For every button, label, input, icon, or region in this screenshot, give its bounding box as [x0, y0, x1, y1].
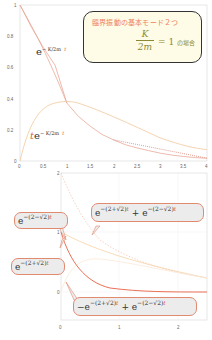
annotation-fraction: K 2m — [136, 29, 154, 52]
annotation-box: 臨界振動の基本モード２つ K 2m = 1 の場合 — [83, 11, 202, 63]
svg-text:0: 0 — [57, 290, 60, 295]
svg-text:0.8: 0.8 — [7, 34, 14, 39]
callout-sum: e−(2+√2)t + e−(2−√2)t — [91, 203, 204, 222]
bottom-series-sum — [61, 173, 207, 278]
svg-text:0: 0 — [18, 164, 21, 169]
top-y-axis: 1 0.8 0.6 0.4 0.2 0 — [7, 3, 17, 164]
svg-text:1.5: 1.5 — [87, 164, 94, 169]
svg-text:1: 1 — [14, 3, 17, 8]
top-x-axis: 0 0.5 1 1.5 2 2.5 3 3.5 4 — [18, 164, 208, 169]
svg-text:0.4: 0.4 — [7, 97, 14, 102]
annotation-equation: = 1 の場合 — [158, 37, 195, 47]
callout-slow-mode: e−(2−√2)t — [14, 212, 68, 229]
svg-text:0.5: 0.5 — [40, 164, 47, 169]
svg-text:0.2: 0.2 — [7, 128, 14, 133]
label-texp-curve: te− K/2m t — [30, 130, 64, 141]
callout-fast-mode: e−(2+√2)t — [11, 258, 65, 275]
svg-text:4: 4 — [205, 164, 208, 169]
svg-text:0: 0 — [59, 325, 62, 330]
svg-text:0.6: 0.6 — [7, 65, 14, 70]
svg-text:3.5: 3.5 — [180, 164, 187, 169]
label-exp-curve: e− K/2m t — [36, 46, 66, 57]
svg-text:1: 1 — [66, 164, 69, 169]
callout-difference: −e−(2+√2)t + e−(2−√2)t — [73, 297, 197, 316]
svg-text:2.5: 2.5 — [134, 164, 141, 169]
bottom-series-slow — [61, 232, 207, 278]
annotation-title: 臨界振動の基本モード２つ — [92, 17, 178, 27]
svg-text:2: 2 — [177, 325, 180, 330]
svg-text:1: 1 — [57, 230, 60, 235]
svg-text:2: 2 — [113, 164, 116, 169]
svg-text:1: 1 — [118, 325, 121, 330]
bottom-series-diff — [61, 259, 207, 292]
svg-text:3: 3 — [159, 164, 162, 169]
bottom-series-fast — [61, 232, 207, 292]
svg-text:2: 2 — [57, 171, 60, 176]
svg-text:0: 0 — [14, 159, 17, 164]
